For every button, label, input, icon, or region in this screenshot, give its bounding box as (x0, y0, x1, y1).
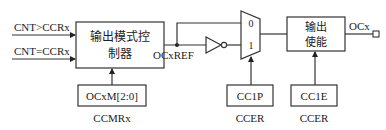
inverter-gate (206, 37, 241, 53)
ccmrx-register-label: CCMRx (93, 112, 131, 124)
ccer-register-label-2: CCER (300, 112, 329, 124)
mode-controller-label-2: 制器 (108, 47, 132, 61)
input-cnt-eq-label: CNT=CCRx (14, 45, 70, 57)
output-compare-diagram: CNT>CCRx CNT=CCRx 输出模式控 制器 OCxM[2:0] CCM… (0, 0, 386, 130)
output-pin-icon (373, 31, 379, 37)
ocxref-label: OCxREF (153, 49, 194, 61)
enable-label-2: 使能 (305, 35, 327, 48)
ocx-output-label: OCx (349, 20, 370, 32)
cc1e-field-label: CC1E (301, 90, 328, 102)
cc1p-control: CC1P CCER (227, 57, 273, 124)
ccer-register-label-1: CCER (236, 112, 265, 124)
mux-input-0-label: 0 (249, 18, 254, 29)
inverter-bubble (221, 42, 226, 47)
output-mode-controller-block: 输出模式控 制器 (76, 22, 164, 68)
enable-label-1: 输出 (305, 20, 327, 33)
ocx-output: OCx (345, 20, 379, 37)
cc1p-field-label: CC1P (237, 90, 263, 102)
output-enable-block: 输出 使能 (287, 17, 345, 51)
ocxref-signal: OCxREF (153, 23, 241, 61)
ocxm-control: OCxM[2:0] CCMRx (78, 69, 146, 124)
mode-controller-label-1: 输出模式控 (90, 29, 150, 44)
mux-input-1-label: 1 (249, 40, 254, 51)
ocxm-field-label: OCxM[2:0] (86, 90, 138, 102)
input-cnt-gt: CNT>CCRx (12, 21, 75, 35)
input-cnt-gt-label: CNT>CCRx (14, 21, 70, 33)
cc1e-control: CC1E CCER (291, 52, 337, 124)
input-cnt-eq: CNT=CCRx (12, 45, 75, 59)
polarity-mux: 0 1 (241, 11, 287, 59)
